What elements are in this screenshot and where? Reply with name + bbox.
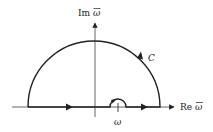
imaginary-axis-label: Im ω — [78, 8, 101, 18]
direction-arrow-icon — [66, 104, 73, 111]
contour-diagram: Im ω Re ω C ω — [0, 0, 213, 132]
contour-label: C — [148, 53, 155, 63]
pole-label: ω — [114, 117, 122, 127]
real-axis-label: Re ω — [180, 102, 203, 112]
direction-arrow-icon — [141, 104, 148, 111]
contour-path — [28, 41, 160, 107]
